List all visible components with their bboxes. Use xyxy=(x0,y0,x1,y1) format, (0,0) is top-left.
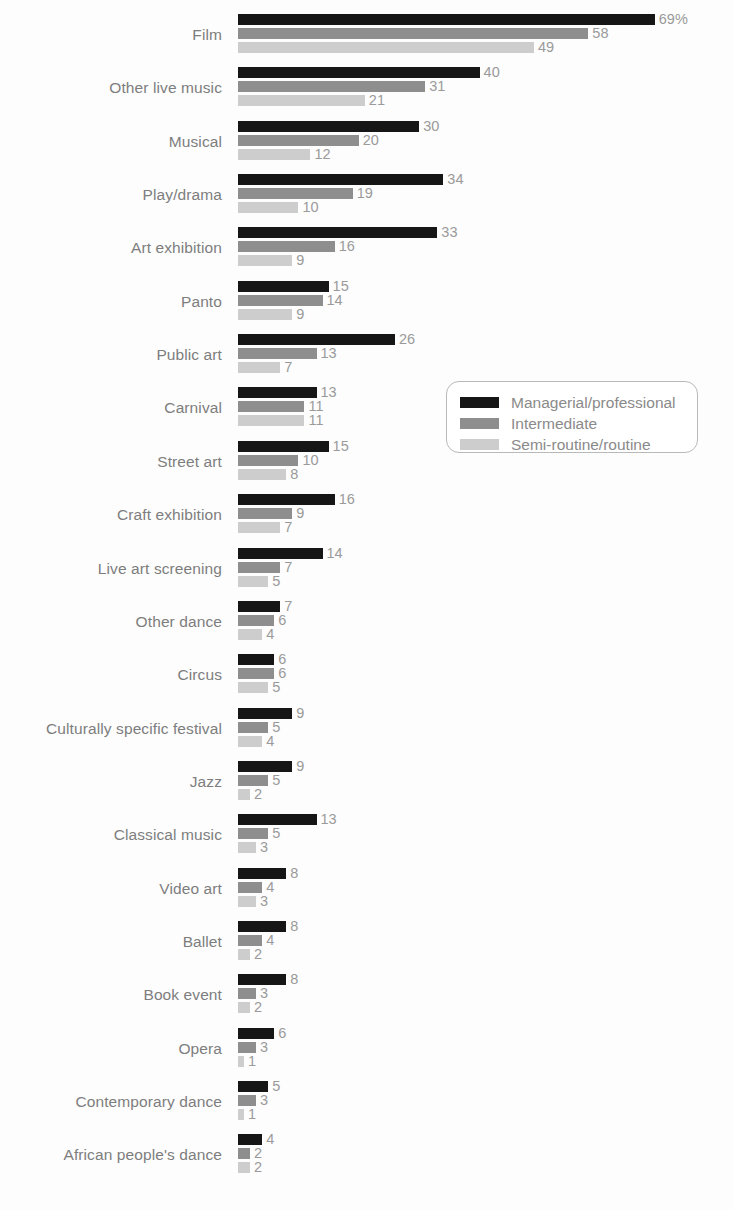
bar-value-label: 2 xyxy=(254,1158,262,1177)
bar-row: 7 xyxy=(238,362,728,373)
bar-row: 40 xyxy=(238,67,728,78)
bar-2 xyxy=(238,415,304,426)
category-label: Other dance xyxy=(0,612,222,631)
bar-value-label: 7 xyxy=(284,518,292,537)
bar-1 xyxy=(238,295,323,306)
bar-row: 9 xyxy=(238,508,728,519)
bar-row: 7 xyxy=(238,601,728,612)
bar-row: 4 xyxy=(238,1134,728,1145)
bar-value-label: 16 xyxy=(339,237,355,256)
bar-row: 5 xyxy=(238,576,728,587)
legend-label: Semi-routine/routine xyxy=(511,434,651,455)
bar-row: 15 xyxy=(238,281,728,292)
bar-value-label: 58 xyxy=(592,24,608,43)
bar-0 xyxy=(238,601,280,612)
category-label: Public art xyxy=(0,345,222,364)
bar-0 xyxy=(238,387,317,398)
bar-row: 58 xyxy=(238,28,728,39)
bar-value-label: 9 xyxy=(296,704,304,723)
bar-2 xyxy=(238,1056,244,1067)
category-label: Opera xyxy=(0,1039,222,1058)
bar-row: 7 xyxy=(238,562,728,573)
bar-row: 2 xyxy=(238,1148,728,1159)
bar-group: Play/drama341910 xyxy=(0,174,734,219)
bar-group: Other dance764 xyxy=(0,601,734,646)
bar-stack: 631 xyxy=(238,1028,728,1073)
bar-2 xyxy=(238,842,256,853)
bar-row: 3 xyxy=(238,1042,728,1053)
bar-0 xyxy=(238,868,286,879)
bar-group: Film69%5849 xyxy=(0,14,734,59)
bar-row: 8 xyxy=(238,974,728,985)
bar-2 xyxy=(238,949,250,960)
bar-value-label: 4 xyxy=(266,732,274,751)
bar-value-label: 4 xyxy=(266,1130,274,1149)
category-label: Carnival xyxy=(0,398,222,417)
bar-row: 14 xyxy=(238,295,728,306)
bar-row: 5 xyxy=(238,722,728,733)
bar-0 xyxy=(238,334,395,345)
bar-stack: 764 xyxy=(238,601,728,646)
bar-group: Ballet842 xyxy=(0,921,734,966)
bar-group: Panto15149 xyxy=(0,281,734,326)
bar-value-label: 69% xyxy=(659,10,688,29)
bar-value-label: 26 xyxy=(399,330,415,349)
bar-value-label: 3 xyxy=(260,892,268,911)
bar-row: 13 xyxy=(238,814,728,825)
bar-group: Contemporary dance531 xyxy=(0,1081,734,1126)
bar-stack: 954 xyxy=(238,708,728,753)
bar-group: Video art843 xyxy=(0,868,734,913)
bar-row: 69% xyxy=(238,14,728,25)
bar-0 xyxy=(238,1028,274,1039)
bar-stack: 665 xyxy=(238,654,728,699)
legend-label: Managerial/professional xyxy=(511,392,676,413)
bar-2 xyxy=(238,469,286,480)
category-label: African people's dance xyxy=(0,1145,222,1164)
bar-stack: 422 xyxy=(238,1134,728,1179)
bar-row: 9 xyxy=(238,255,728,266)
bar-0 xyxy=(238,494,335,505)
bar-row: 21 xyxy=(238,95,728,106)
bar-value-label: 10 xyxy=(302,451,318,470)
bar-1 xyxy=(238,188,353,199)
bar-value-label: 2 xyxy=(254,998,262,1017)
category-label: Street art xyxy=(0,452,222,471)
bar-group: Art exhibition33169 xyxy=(0,227,734,272)
bar-stack: 69%5849 xyxy=(238,14,728,59)
bar-value-label: 5 xyxy=(272,771,280,790)
bar-value-label: 40 xyxy=(484,63,500,82)
bar-row: 16 xyxy=(238,241,728,252)
bar-row: 4 xyxy=(238,736,728,747)
bar-1 xyxy=(238,722,268,733)
bar-2 xyxy=(238,42,534,53)
bar-value-label: 3 xyxy=(260,1038,268,1057)
bar-value-label: 12 xyxy=(314,145,330,164)
bar-value-label: 11 xyxy=(308,411,323,430)
bar-row: 6 xyxy=(238,668,728,679)
bar-group: Classical music1353 xyxy=(0,814,734,859)
bar-row: 16 xyxy=(238,494,728,505)
bar-row: 9 xyxy=(238,309,728,320)
bar-row: 9 xyxy=(238,708,728,719)
bar-value-label: 1 xyxy=(248,1105,256,1124)
bar-1 xyxy=(238,348,317,359)
bar-2 xyxy=(238,789,250,800)
bar-group: Culturally specific festival954 xyxy=(0,708,734,753)
bar-value-label: 8 xyxy=(290,864,298,883)
bar-stack: 842 xyxy=(238,921,728,966)
bar-2 xyxy=(238,95,365,106)
bar-2 xyxy=(238,149,310,160)
bar-row: 9 xyxy=(238,761,728,772)
bar-group: African people's dance422 xyxy=(0,1134,734,1179)
bar-row: 4 xyxy=(238,935,728,946)
bar-value-label: 5 xyxy=(272,572,280,591)
bar-value-label: 14 xyxy=(327,291,343,310)
category-label: Panto xyxy=(0,292,222,311)
bar-1 xyxy=(238,81,425,92)
bar-1 xyxy=(238,135,359,146)
bar-row: 3 xyxy=(238,896,728,907)
bar-value-label: 4 xyxy=(266,625,274,644)
bar-stack: 832 xyxy=(238,974,728,1019)
bar-row: 33 xyxy=(238,227,728,238)
category-label: Jazz xyxy=(0,772,222,791)
